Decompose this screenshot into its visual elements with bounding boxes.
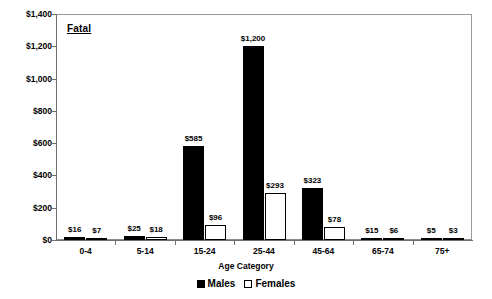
bar-value-label: $18 <box>140 226 173 234</box>
y-tick-label: $1,200 <box>2 42 52 51</box>
bar-males-75+ <box>421 238 442 240</box>
x-tick-label: 45-64 <box>294 247 353 256</box>
bar-value-label: $3 <box>437 227 470 235</box>
bar-females-45-64 <box>324 227 345 240</box>
y-tick-label: $0 <box>2 236 52 245</box>
bar-males-15-24 <box>183 146 204 240</box>
bar-males-5-14 <box>124 236 145 240</box>
bar-females-0-4 <box>86 238 107 240</box>
bar-females-75+ <box>443 238 464 240</box>
y-axis: $0$200$400$600$800$1,000$1,200$1,400 <box>0 0 52 299</box>
x-tick-label: 5-14 <box>115 247 174 256</box>
x-tick-mark <box>234 241 235 245</box>
y-tick-label: $1,400 <box>2 10 52 19</box>
y-tick-mark <box>52 240 56 241</box>
filled-square-icon <box>197 280 205 288</box>
bar-value-label: $7 <box>80 227 113 235</box>
bar-females-25-44 <box>265 193 286 240</box>
bar-females-65-74 <box>383 238 404 240</box>
y-tick-mark <box>52 111 56 112</box>
bar-chart: Fatal $0$200$400$600$800$1,000$1,200$1,4… <box>0 0 492 299</box>
x-tick-mark <box>115 241 116 245</box>
bar-value-label: $78 <box>318 216 351 224</box>
y-tick-label: $1,000 <box>2 75 52 84</box>
y-tick-label: $200 <box>2 204 52 213</box>
bar-value-label: $293 <box>259 182 292 190</box>
x-tick-label: 0-4 <box>56 247 115 256</box>
bar-value-label: $96 <box>199 214 232 222</box>
y-tick-label: $600 <box>2 139 52 148</box>
y-tick-mark <box>52 143 56 144</box>
bar-value-label: $1,200 <box>237 35 270 43</box>
bar-females-15-24 <box>205 225 226 240</box>
open-square-icon <box>244 280 252 288</box>
legend-label-females: Females <box>255 279 295 289</box>
chart-legend: Males Females <box>0 279 492 289</box>
y-tick-mark <box>52 208 56 209</box>
panel-title: Fatal <box>67 23 91 34</box>
x-tick-label: 65-74 <box>353 247 412 256</box>
y-tick-mark <box>52 175 56 176</box>
legend-item-females: Females <box>244 279 295 289</box>
y-tick-label: $800 <box>2 107 52 116</box>
x-tick-label: 75+ <box>413 247 472 256</box>
x-axis-line <box>56 240 473 241</box>
x-tick-mark <box>353 241 354 245</box>
bar-males-0-4 <box>64 237 85 240</box>
x-tick-mark <box>175 241 176 245</box>
x-tick-mark <box>294 241 295 245</box>
bar-value-label: $6 <box>377 227 410 235</box>
bar-males-65-74 <box>361 238 382 240</box>
x-tick-label: 25-44 <box>234 247 293 256</box>
x-tick-label: 15-24 <box>175 247 234 256</box>
bar-males-25-44 <box>243 46 264 240</box>
bar-females-5-14 <box>146 237 167 240</box>
legend-label-males: Males <box>208 279 236 289</box>
x-axis-title: Age Category <box>0 262 492 271</box>
y-axis-line <box>56 14 57 241</box>
y-tick-mark <box>52 46 56 47</box>
y-tick-label: $400 <box>2 171 52 180</box>
y-tick-mark <box>52 79 56 80</box>
bar-value-label: $323 <box>296 177 329 185</box>
legend-item-males: Males <box>197 279 236 289</box>
y-tick-mark <box>52 14 56 15</box>
x-tick-mark <box>413 241 414 245</box>
bar-males-45-64 <box>302 188 323 240</box>
bar-value-label: $585 <box>177 135 210 143</box>
